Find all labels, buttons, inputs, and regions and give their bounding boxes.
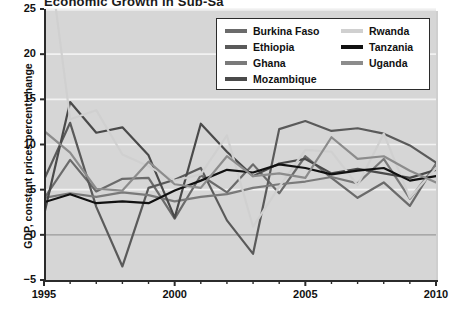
legend-item[interactable]: Rwanda: [341, 23, 413, 38]
y-tick-label: 20: [2, 47, 36, 59]
legend-color-swatch: [341, 61, 363, 65]
legend-item[interactable]: Ghana: [225, 55, 320, 70]
y-tick-label: −5: [2, 273, 36, 285]
legend-item[interactable]: Burkina Faso: [225, 23, 320, 38]
legend-color-swatch: [341, 45, 363, 49]
legend-item[interactable]: Tanzania: [341, 39, 413, 54]
legend-item[interactable]: Mozambique: [225, 71, 320, 86]
legend-item-label: Mozambique: [253, 73, 317, 85]
legend-color-swatch: [225, 77, 247, 81]
legend-color-swatch: [341, 29, 363, 33]
x-tick-label: 2000: [153, 288, 197, 300]
legend-item[interactable]: Uganda: [341, 55, 413, 70]
x-tick-label: 1995: [22, 288, 66, 300]
legend-column-right: RwandaTanzaniaUganda: [341, 23, 413, 71]
legend-item-label: Ethiopia: [253, 41, 294, 53]
legend-item-label: Rwanda: [369, 25, 409, 37]
legend[interactable]: Burkina FasoEthiopiaGhanaMozambique Rwan…: [216, 18, 430, 90]
x-tick-label: 2005: [283, 288, 327, 300]
y-tick-label: 0: [2, 228, 36, 240]
legend-item-label: Tanzania: [369, 41, 413, 53]
y-tick-label: 15: [2, 92, 36, 104]
legend-item-label: Uganda: [369, 57, 408, 69]
legend-color-swatch: [225, 29, 247, 33]
y-tick-label: 10: [2, 138, 36, 150]
legend-item-label: Burkina Faso: [253, 25, 320, 37]
legend-color-swatch: [225, 45, 247, 49]
legend-column-left: Burkina FasoEthiopiaGhanaMozambique: [225, 23, 320, 87]
y-tick-label: 25: [2, 2, 36, 14]
x-tick-label: 2010: [414, 288, 453, 300]
y-tick-label: 5: [2, 183, 36, 195]
legend-item[interactable]: Ethiopia: [225, 39, 320, 54]
legend-color-swatch: [225, 61, 247, 65]
legend-item-label: Ghana: [253, 57, 286, 69]
